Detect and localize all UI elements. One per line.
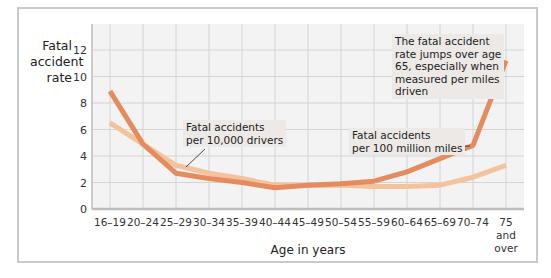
y-title-line: rate [30,70,72,86]
annotation-line: rate jumps over age [395,48,501,61]
annotation-line: driven [395,85,501,98]
y-tick-label: 0 [80,203,87,216]
annotation-line: The fatal accident [395,35,501,48]
x-tick-label: 30–34 [193,216,225,228]
x-tick-label: 35–39 [226,216,258,228]
x-tick-label: 50–54 [325,216,357,228]
y-tick-label: 4 [80,150,87,163]
y-tick-label: 10 [73,71,87,84]
annotation-line: measured per miles [395,73,501,86]
x-tick-label: 70–74 [457,216,489,228]
annotation-line: Fatal accidents [186,121,283,134]
y-tick-label: 6 [80,124,87,137]
y-tick-label: 2 [80,177,87,190]
x-tick-label: 25–29 [160,216,192,228]
x-tick-label: 55–59 [358,216,390,228]
x-tick-label: 65–69 [424,216,456,228]
y-tick-label: 8 [80,97,87,110]
annotation-line: Fatal accidents [352,129,462,142]
annotation-jump: The fatal accident rate jumps over age 6… [392,34,504,99]
x-tick-label: 60–64 [391,216,423,228]
x-tick-label: and [496,229,516,241]
x-tick-label: 20–24 [127,216,159,228]
annotation-line: per 100 million miles [352,142,462,155]
x-tick-label: 75 [499,216,512,228]
annotation-line: per 10,000 drivers [186,134,283,147]
x-tick-label: 16–19 [94,216,126,228]
y-title-line: accident [30,54,72,70]
annotation-miles: Fatal accidents per 100 million miles [349,128,465,155]
x-axis-title: Age in years [92,243,524,257]
annotation-drivers: Fatal accidents per 10,000 drivers [183,120,286,147]
x-tick-label: 45–49 [292,216,324,228]
x-tick-label: 40–44 [259,216,291,228]
annotation-line: 65, especially when [395,60,501,73]
y-axis-title: Fatal accident rate [30,38,72,86]
y-title-line: Fatal [30,38,72,54]
